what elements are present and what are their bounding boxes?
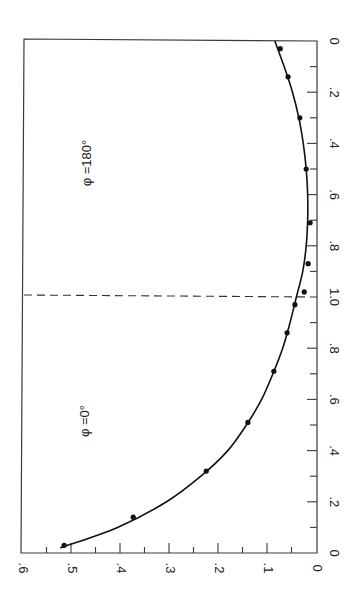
data-point: [302, 289, 307, 294]
x-tick-label: .8: [327, 343, 342, 354]
x-tick-label: .6: [327, 394, 342, 405]
data-point: [204, 468, 209, 473]
x-tick-label: .2: [327, 496, 342, 507]
y-tick-label: .4: [114, 563, 129, 574]
branch-annotation: φ =0°: [77, 405, 92, 437]
x-tick-label: .4: [327, 445, 342, 456]
data-point: [306, 261, 311, 266]
x-tick-label: 0: [327, 37, 342, 44]
data-point: [292, 302, 297, 307]
y-tick-label: 0: [310, 564, 325, 571]
x-tick-label: .2: [327, 87, 342, 98]
x-tick-label: .8: [327, 240, 342, 251]
rotated-scatter-chart: 0.1.2.3.4.5.60.2.4.6.81.0.8.6.4.20 φ =18…: [0, 0, 360, 605]
y-tick-label: .5: [65, 563, 80, 574]
x-tick-label: 0: [327, 549, 342, 556]
x-tick-label: 1.0: [327, 288, 342, 306]
data-point: [131, 515, 136, 520]
annotations: φ =180°φ =0°: [77, 140, 94, 437]
divider-dashed-line: [24, 295, 317, 297]
y-tick-label: .2: [212, 563, 227, 574]
y-tick-label: .3: [163, 563, 178, 574]
data-point: [284, 330, 289, 335]
data-point: [245, 420, 250, 425]
y-tick-label: .1: [261, 563, 276, 574]
data-point: [308, 220, 313, 225]
x-tick-label: .6: [327, 189, 342, 200]
data-point: [278, 46, 283, 51]
fit-curves: [60, 41, 308, 548]
fit-curve: [275, 41, 308, 297]
branch-annotation: φ =180°: [79, 140, 94, 187]
data-point: [285, 74, 290, 79]
data-point: [297, 115, 302, 120]
data-point: [304, 166, 309, 171]
data-point: [271, 369, 276, 374]
axis-ticks: [47, 67, 318, 553]
x-tick-label: .4: [327, 138, 342, 149]
y-tick-label: .6: [16, 563, 31, 574]
fit-curve: [60, 297, 296, 548]
data-point: [62, 543, 67, 548]
